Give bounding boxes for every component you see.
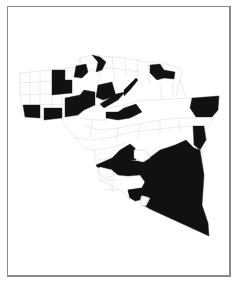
shaded-county-e-block <box>190 96 219 117</box>
shaded-county-nw-bottom <box>44 108 62 120</box>
choropleth-map <box>0 0 239 285</box>
shaded-county-nw-bottom-left <box>23 105 40 118</box>
